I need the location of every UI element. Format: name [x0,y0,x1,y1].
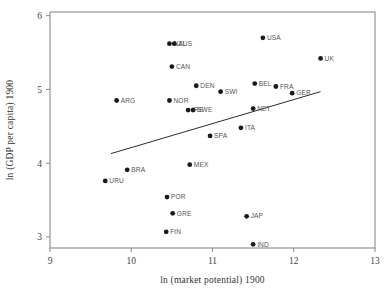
data-point-marker [251,106,256,111]
data-point: BRA [125,166,146,173]
data-point-label: IND [257,241,269,248]
data-point-marker [186,108,191,113]
data-point-marker [170,211,175,216]
data-point: ARG [114,97,135,104]
data-point: BEL [252,80,271,87]
data-point-label: POR [171,193,186,200]
data-point: GRE [170,210,192,217]
data-point-label: FRA [280,83,294,90]
data-point-label: BRA [131,166,145,173]
data-point-label: URU [109,177,124,184]
x-tick-label: 9 [48,256,53,266]
data-point-label: USA [267,34,281,41]
y-axis-tickmarks [46,16,50,237]
data-point-label: MEX [194,161,209,168]
data-point: CAN [169,63,190,70]
data-point-label: FIN [170,228,181,235]
data-point-label: CAN [176,63,190,70]
data-point-marker [273,84,278,89]
x-tick-label: 12 [289,256,299,266]
data-point-marker [172,41,177,46]
data-point: IND [251,241,269,248]
regression-line [111,92,321,154]
data-point: ITA [239,124,256,131]
data-point-label: GER [296,89,311,96]
data-point-marker [169,64,174,69]
data-point: FIN [164,228,182,235]
data-point: JAP [244,212,263,219]
y-tick-label: 3 [37,232,42,242]
data-point-marker [252,81,257,86]
data-point-label: JAP [251,212,264,219]
scatter-plot-figure: NZLAUSUSAUKCANDENBELFRASWIGERARGNORIRESW… [0,0,389,295]
data-point-marker [290,91,295,96]
data-point-marker [239,125,244,130]
data-point-marker [191,108,196,113]
data-point: DEN [194,82,215,89]
data-point: SPA [208,132,228,139]
data-point-label: SWE [197,106,213,113]
data-point-marker [194,83,199,88]
data-point-label: BEL [259,80,272,87]
data-point-marker [167,98,172,103]
x-tick-label: 10 [127,256,137,266]
data-point-marker [114,98,119,103]
data-point-marker [164,229,169,234]
data-point-marker [167,41,172,46]
y-tick-label: 4 [37,159,42,169]
data-point-marker [208,134,213,139]
data-point-marker [165,195,170,200]
data-point-marker [187,162,192,167]
y-axis-tick-labels: 3456 [37,11,42,242]
x-axis-tick-labels: 910111213 [48,256,380,266]
data-point: SWI [218,88,237,95]
data-point: NET [251,105,271,112]
data-point: GER [290,89,311,96]
data-point-marker [318,56,323,61]
chart-canvas: NZLAUSUSAUKCANDENBELFRASWIGERARGNORIRESW… [0,0,389,295]
data-point-label: NOR [173,97,188,104]
data-point-label: AUS [178,40,192,47]
data-point-marker [251,242,256,247]
data-point-marker [244,214,249,219]
data-point-marker [103,178,108,183]
x-tick-label: 13 [370,256,380,266]
data-point-marker [125,167,130,172]
data-point-label: NET [257,105,271,112]
data-point-label: SPA [214,132,228,139]
data-point: NOR [167,97,189,104]
data-point: MEX [187,161,209,168]
y-axis-title: ln (GDP per capita) 1900 [5,80,16,181]
data-point-marker [260,35,265,40]
data-point: UK [318,55,334,62]
data-point: URU [103,177,124,184]
data-points-group: NZLAUSUSAUKCANDENBELFRASWIGERARGNORIRESW… [103,34,335,248]
data-point: USA [260,34,281,41]
data-point-marker [218,89,223,94]
data-point: FRA [273,83,293,90]
data-point-label: DEN [200,82,214,89]
data-point-label: UK [325,55,335,62]
plot-frame [50,12,375,248]
y-tick-label: 6 [37,11,42,21]
x-axis-title: ln (market potential) 1900 [160,275,265,286]
x-tick-label: 11 [208,256,217,266]
data-point-label: GRE [177,210,192,217]
data-point-label: ITA [245,124,256,131]
x-axis-tickmarks [50,248,375,252]
data-point: POR [165,193,186,200]
data-point-label: ARG [121,97,136,104]
y-tick-label: 5 [37,85,42,95]
data-point-label: SWI [225,88,238,95]
